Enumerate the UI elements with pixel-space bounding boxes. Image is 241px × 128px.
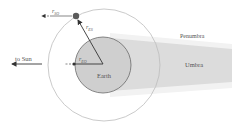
satellite-dot bbox=[73, 13, 79, 19]
r-es-label: rES bbox=[86, 24, 93, 32]
earth-shadow-diagram: to Sun Earth Penumbra Umbra rSO rES rEO bbox=[0, 0, 241, 128]
to-sun-label: to Sun bbox=[15, 55, 33, 62]
earth-label: Earth bbox=[97, 72, 112, 79]
observer-dot bbox=[72, 62, 75, 65]
r-so-label: rSO bbox=[52, 8, 59, 16]
earth-disk bbox=[75, 37, 131, 93]
umbra-label: Umbra bbox=[185, 61, 203, 68]
penumbra-label: Penumbra bbox=[180, 33, 205, 39]
